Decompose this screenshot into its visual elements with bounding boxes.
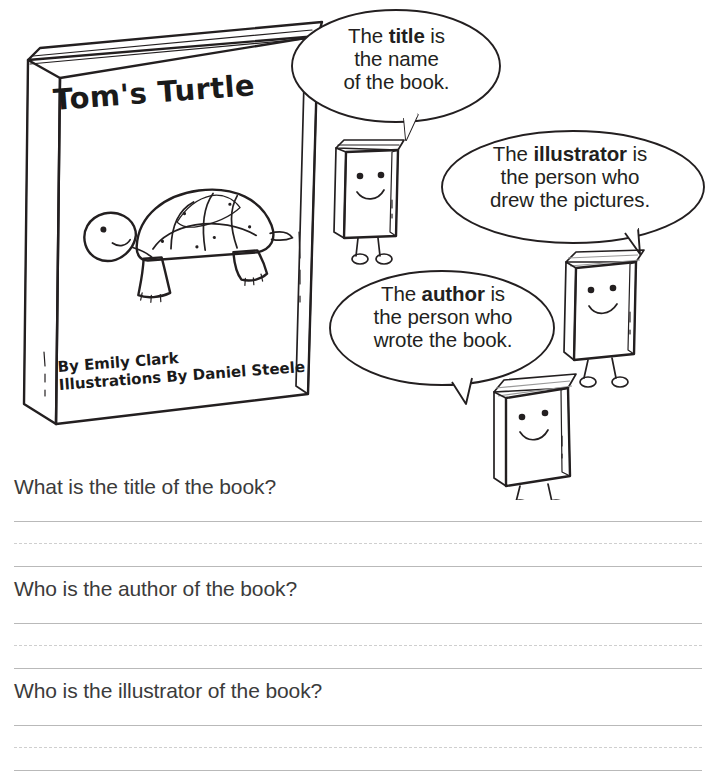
- worksheet-questions: What is the title of the book? Who is th…: [0, 466, 716, 774]
- answer-line-1b[interactable]: [14, 543, 702, 544]
- answer-line-1a[interactable]: [14, 521, 702, 522]
- title-bubble-text: The title is the name of the book.: [304, 25, 489, 94]
- author-bubble-line2: the person who: [338, 306, 548, 329]
- illustration-area: .ln { fill:none; stroke:#231f20; stroke-…: [0, 0, 716, 500]
- answer-line-3a[interactable]: [14, 725, 702, 726]
- answer-line-3c[interactable]: [14, 770, 702, 771]
- question-illustrator-label: Who is the illustrator of the book?: [14, 679, 322, 703]
- worksheet-page: .ln { fill:none; stroke:#231f20; stroke-…: [0, 0, 716, 774]
- question-title-label: What is the title of the book?: [14, 475, 276, 499]
- answer-line-3b[interactable]: [14, 747, 702, 748]
- book-character-illustrator: [564, 250, 644, 387]
- illustrator-bubble-line1: The illustrator is: [442, 143, 698, 166]
- book-character-title: [334, 140, 404, 264]
- illustrator-bubble-line3: drew the pictures.: [442, 189, 698, 212]
- answer-line-1c[interactable]: [14, 566, 702, 567]
- author-bubble-line3: wrote the book.: [338, 329, 548, 352]
- illustrator-bubble-text: The illustrator is the person who drew t…: [442, 143, 698, 212]
- title-bubble-line1: The title is: [304, 25, 489, 48]
- author-bubble-line1: The author is: [338, 283, 548, 306]
- question-author-label: Who is the author of the book?: [14, 577, 297, 601]
- title-bubble-line3: of the book.: [304, 71, 489, 94]
- answer-line-2b[interactable]: [14, 645, 702, 646]
- answer-line-2a[interactable]: [14, 623, 702, 624]
- title-bubble-line2: the name: [304, 48, 489, 71]
- turtle-drawing: [81, 184, 296, 307]
- illustrator-bubble-line2: the person who: [442, 166, 698, 189]
- answer-line-2c[interactable]: [14, 668, 702, 669]
- author-bubble-text: The author is the person who wrote the b…: [338, 283, 548, 352]
